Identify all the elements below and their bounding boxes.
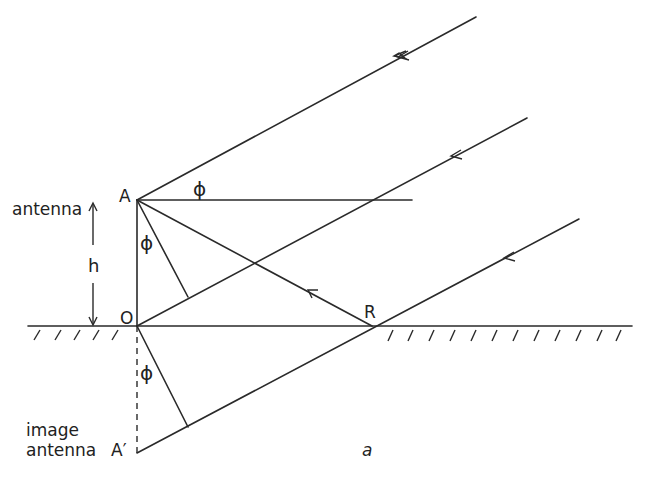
- figure-sub-label: a: [362, 440, 372, 460]
- point-A-label: A: [119, 186, 131, 206]
- incoming-ray-3: [137, 219, 579, 453]
- phi-angle-mid: ϕ: [140, 231, 153, 255]
- reflection-diagram: antenna A h ϕ ϕ O R ϕ image antenna A′ a: [0, 0, 645, 477]
- antenna-label: antenna: [12, 199, 82, 219]
- image-label: image: [26, 420, 79, 440]
- height-label: h: [88, 255, 99, 276]
- ground-hatching-left: [34, 330, 118, 340]
- phi-angle-low: ϕ: [140, 361, 153, 385]
- ground-hatching-right: [388, 330, 621, 341]
- image-antenna-label: antenna: [26, 440, 96, 460]
- incoming-ray-2: [137, 118, 527, 326]
- phi-angle-top: ϕ: [193, 177, 206, 201]
- point-R-label: R: [364, 302, 376, 322]
- point-O-label: O: [120, 308, 133, 328]
- point-A-prime-label: A′: [111, 440, 127, 460]
